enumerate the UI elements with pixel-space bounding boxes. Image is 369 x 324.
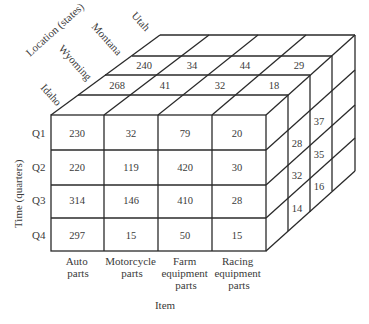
cell-q4-racing: 15	[232, 230, 243, 241]
cell-montana-auto: 240	[136, 60, 152, 71]
time-label-q3: Q3	[32, 194, 46, 206]
item-axis-title: Item	[155, 299, 176, 311]
time-axis-title: Time (quarters)	[12, 159, 25, 228]
item-label-auto: Auto parts	[66, 255, 91, 279]
location-axis-title: Location (states)	[23, 0, 87, 59]
cell-q1-farm: 79	[180, 128, 191, 139]
data-cube-diagram: 230 32 79 20 220 119 420 30 314 146 410 …	[0, 0, 369, 324]
cell-q2-farm: 420	[177, 162, 193, 173]
item-label-motorcycle: Motorcycle parts	[105, 255, 158, 279]
cell-q1-motorcycle: 32	[126, 128, 137, 139]
cell-montana-farm: 44	[240, 60, 251, 71]
cell-wyoming-auto: 268	[109, 80, 125, 91]
cell-q3-farm: 410	[177, 195, 193, 206]
cell-montana-q2-right: 35	[314, 149, 325, 160]
cell-montana-motorcycle: 34	[187, 60, 198, 71]
cell-q2-auto: 220	[69, 162, 85, 173]
item-axis: Auto parts Motorcycle parts Farm equipme…	[66, 255, 264, 311]
cell-q3-auto: 314	[69, 195, 86, 206]
cell-wyoming-q1-right: 28	[292, 138, 303, 149]
item-label-farm: Farm equipment parts	[161, 255, 210, 291]
cell-q4-auto: 297	[69, 230, 85, 241]
cell-wyoming-q2-right: 32	[292, 170, 303, 181]
cell-montana-q3-right: 16	[314, 181, 325, 192]
time-label-q2: Q2	[32, 161, 45, 173]
cell-q4-motorcycle: 15	[126, 230, 137, 241]
cell-wyoming-racing: 18	[269, 80, 280, 91]
cell-wyoming-q3-right: 14	[292, 203, 303, 214]
cell-q2-racing: 30	[232, 162, 243, 173]
cell-wyoming-motorcycle: 41	[160, 80, 171, 91]
cell-montana-q1-right: 37	[314, 116, 325, 127]
time-label-q1: Q1	[32, 127, 45, 139]
location-label-utah: Utah	[130, 9, 154, 33]
cell-wyoming-farm: 32	[215, 80, 226, 91]
location-label-idaho: Idaho	[39, 81, 65, 108]
cell-q3-motorcycle: 146	[123, 195, 139, 206]
item-label-racing: Racing equipment parts	[214, 255, 263, 291]
right-face	[266, 35, 355, 251]
location-label-wyoming: Wyoming	[57, 42, 95, 83]
cell-q1-auto: 230	[69, 128, 85, 139]
cell-q2-motorcycle: 119	[123, 162, 138, 173]
cell-q1-racing: 20	[232, 128, 243, 139]
cell-q3-racing: 28	[232, 195, 243, 206]
time-axis: Time (quarters) Q1 Q2 Q3 Q4	[12, 127, 46, 241]
time-label-q4: Q4	[32, 229, 46, 241]
cell-q4-farm: 50	[180, 230, 191, 241]
location-label-montana: Montana	[90, 20, 125, 57]
right-face-values: 28 32 14 37 35 16	[292, 116, 325, 214]
cell-montana-racing: 29	[294, 60, 305, 71]
